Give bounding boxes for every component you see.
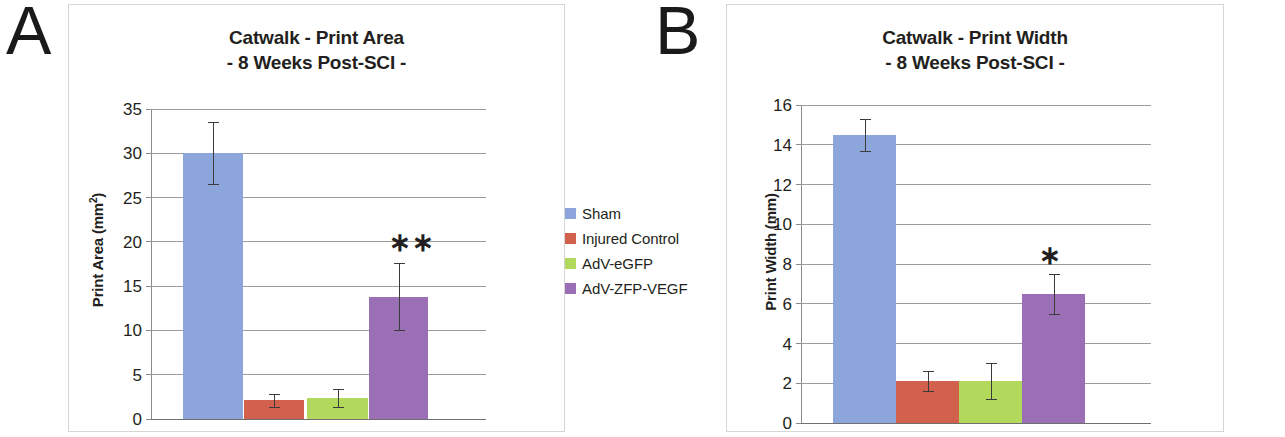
y-axis-line-a — [151, 109, 152, 419]
significance-marker: ∗ — [1039, 242, 1062, 268]
y-axis-tick — [146, 241, 151, 242]
y-axis-tick-label: 12 — [773, 176, 792, 193]
legend-label: Sham — [582, 206, 621, 221]
y-axis-tick — [796, 423, 801, 424]
y-axis-tick — [796, 105, 801, 106]
error-bar — [1054, 274, 1055, 314]
y-axis-tick-label: 0 — [133, 411, 142, 428]
figure-catwalk-gait-analysis: A Catwalk - Print Area - 8 Weeks Post-SC… — [0, 0, 1285, 437]
y-axis-tick — [796, 303, 801, 304]
bar-fill — [183, 153, 243, 419]
chart-frame-a: Catwalk - Print Area - 8 Weeks Post-SCI … — [68, 4, 565, 432]
y-axis-tick-label: 16 — [773, 97, 792, 114]
error-bar-cap-upper — [333, 389, 344, 390]
y-axis-tick — [796, 144, 801, 145]
plot-area-b: 0246810121416∗ — [801, 105, 1151, 423]
error-bar-cap-lower — [860, 151, 871, 152]
y-axis-tick-label: 8 — [783, 256, 792, 273]
error-bar-cap-lower — [394, 330, 405, 331]
chart-title-a-line2: - 8 Weeks Post-SCI - — [69, 50, 564, 75]
panel-a: A Catwalk - Print Area - 8 Weeks Post-SC… — [0, 0, 643, 437]
y-axis-tick-label: 2 — [783, 375, 792, 392]
y-axis-tick — [146, 286, 151, 287]
chart-title-b-line2: - 8 Weeks Post-SCI - — [727, 50, 1223, 75]
y-axis-tick — [796, 224, 801, 225]
panel-letter-a: A — [6, 0, 51, 64]
chart-frame-b: Catwalk - Print Width - 8 Weeks Post-SCI… — [726, 4, 1224, 432]
chart-title-b: Catwalk - Print Width - 8 Weeks Post-SCI… — [727, 25, 1223, 75]
y-axis-tick — [146, 419, 151, 420]
error-bar-cap-lower — [333, 407, 344, 408]
error-bar — [338, 389, 339, 407]
bar-sham — [183, 153, 243, 419]
error-bar-cap-lower — [923, 391, 934, 392]
y-axis-tick — [146, 109, 151, 110]
significance-marker: ∗∗ — [389, 229, 435, 255]
error-bar-cap-upper — [208, 122, 219, 123]
panel-b: B Catwalk - Print Width - 8 Weeks Post-S… — [643, 0, 1285, 437]
legend-swatch-adv-zfp-vegf — [565, 283, 576, 294]
error-bar-cap-upper — [986, 363, 997, 364]
y-axis-tick — [146, 330, 151, 331]
y-axis-tick-label: 6 — [783, 295, 792, 312]
y-axis-tick — [796, 383, 801, 384]
bar-sham — [833, 135, 896, 423]
error-bar-cap-lower — [269, 407, 280, 408]
y-axis-tick — [796, 264, 801, 265]
y-axis-tick-label: 35 — [123, 101, 142, 118]
error-bar-cap-upper — [923, 371, 934, 372]
y-axis-tick-label: 4 — [783, 335, 792, 352]
error-bar-cap-upper — [1049, 274, 1060, 275]
y-axis-tick-label: 15 — [123, 278, 142, 295]
error-bar-cap-upper — [860, 119, 871, 120]
error-bar — [274, 394, 275, 406]
y-axis-tick — [146, 153, 151, 154]
y-axis-tick — [146, 374, 151, 375]
chart-title-b-line1: Catwalk - Print Width — [882, 27, 1068, 48]
legend-swatch-adv-egfp — [565, 258, 576, 269]
error-bar — [865, 119, 866, 151]
error-bar-cap-upper — [269, 394, 280, 395]
legend-swatch-injured-control — [565, 233, 576, 244]
y-axis-tick — [146, 197, 151, 198]
error-bar-cap-lower — [208, 184, 219, 185]
y-axis-title-a: Print Area (mm2) — [88, 165, 106, 335]
gridline — [151, 109, 486, 110]
error-bar — [928, 371, 929, 391]
chart-title-a-line1: Catwalk - Print Area — [229, 27, 404, 48]
y-axis-tick-label: 10 — [773, 216, 792, 233]
error-bar-cap-lower — [986, 399, 997, 400]
gridline — [801, 105, 1151, 106]
error-bar — [213, 122, 214, 184]
error-bar-cap-upper — [394, 263, 405, 264]
y-axis-tick-label: 0 — [783, 415, 792, 432]
y-axis-tick-label: 10 — [123, 322, 142, 339]
y-axis-tick-label: 20 — [123, 233, 142, 250]
error-bar-cap-lower — [1049, 314, 1060, 315]
y-axis-tick — [796, 184, 801, 185]
y-axis-tick-label: 14 — [773, 136, 792, 153]
error-bar — [399, 263, 400, 330]
chart-title-a: Catwalk - Print Area - 8 Weeks Post-SCI … — [69, 25, 564, 75]
panel-letter-b: B — [655, 0, 700, 64]
legend-swatch-sham — [565, 208, 576, 219]
y-axis-tick — [796, 343, 801, 344]
y-axis-tick-label: 25 — [123, 189, 142, 206]
y-axis-tick-label: 5 — [133, 366, 142, 383]
plot-area-a: 05101520253035∗∗ — [151, 109, 486, 419]
bar-fill — [833, 135, 896, 423]
y-axis-tick-label: 30 — [123, 145, 142, 162]
error-bar — [991, 363, 992, 399]
